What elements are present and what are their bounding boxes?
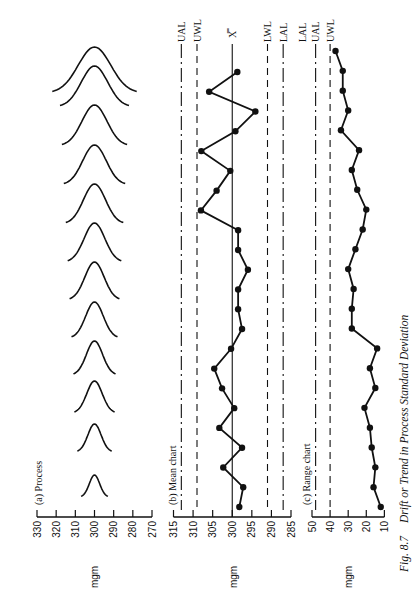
process-distribution-curve [64, 145, 125, 184]
range-data-point [372, 385, 378, 391]
mean-tick-label: 285 [286, 521, 297, 538]
range-data-point [374, 345, 380, 351]
mean-data-point [216, 425, 222, 431]
mean-ylabel: mgm [228, 566, 239, 588]
mean-data-point [245, 267, 251, 273]
mean-data-point [211, 365, 217, 371]
mean-lwl-label: LWL [262, 21, 273, 42]
mean-chart-panel: 315310305300295290285UALUWLLWLLALX̿ [168, 19, 297, 537]
range-tick-label: 30 [343, 521, 354, 533]
range-data-point [367, 424, 373, 430]
mean-data-point [239, 444, 245, 450]
mean-chart-title: (b) Mean chart [167, 445, 179, 505]
process-tick-label: 290 [108, 521, 119, 538]
range-data-point [359, 226, 365, 232]
process-distribution-curve [66, 184, 124, 223]
mean-data-point [198, 207, 204, 213]
mean-data-point [235, 247, 241, 253]
range-tick-label: 50 [307, 521, 318, 533]
range-data-point [372, 464, 378, 470]
figure-caption: Fig. 8.7 Drift or Trend in Process Stand… [398, 314, 411, 573]
range-data-point [340, 68, 346, 74]
process-distribution-curve [62, 105, 127, 145]
mean-data-point [206, 89, 212, 95]
figure-number: Fig. 8.7 [398, 535, 411, 573]
range-data-point [378, 504, 384, 510]
mean-data-point [234, 69, 240, 75]
process-distribution-curve [60, 66, 129, 106]
range-data-point [332, 48, 338, 54]
process-distribution-curve [73, 341, 115, 374]
range-tick-label: 40 [325, 521, 336, 533]
mean-data-point [228, 346, 234, 352]
range-tick-label: 10 [379, 521, 390, 533]
range-data-point [340, 87, 346, 93]
process-panel: 330320310300290280270 [32, 47, 158, 538]
mean-data-point [236, 504, 242, 510]
range-data-point [361, 405, 367, 411]
range-data-point [354, 187, 360, 193]
process-distribution-curve [74, 381, 114, 412]
mean-data-point [232, 128, 238, 134]
mean-uwl-label: UWL [192, 19, 203, 42]
range-data-point [356, 147, 362, 153]
mean-tick-label: 305 [207, 521, 218, 538]
range-lal-label: LAL [297, 23, 308, 42]
mean-data-point [219, 385, 225, 391]
range-uwl-label: UWL [325, 19, 336, 42]
range-data-point [345, 107, 351, 113]
figure-8-7: 330320310300290280270 315310305300295290… [0, 0, 417, 603]
mean-data-point [235, 227, 241, 233]
range-tick-label: 20 [361, 521, 372, 533]
process-distribution-curve [68, 223, 122, 261]
mean-data-point [227, 168, 233, 174]
mean-tick-label: 295 [246, 521, 257, 538]
mean-data-point [231, 405, 237, 411]
mean-ual-label: UAL [176, 21, 187, 42]
process-distribution-curve [70, 262, 120, 299]
process-distribution-curve [81, 475, 108, 496]
process-ylabel: mgm [89, 566, 100, 588]
mean-lal-label: LAL [278, 23, 289, 42]
mean-data-point [239, 326, 245, 332]
mean-tick-label: 310 [188, 521, 199, 538]
range-data-point [349, 325, 355, 331]
process-distribution-curve [52, 47, 136, 91]
mean-data-point [198, 148, 204, 154]
range-ylabel: mgm [343, 566, 354, 588]
mean-tick-label: 290 [266, 521, 277, 538]
range-data-point [367, 365, 373, 371]
range-data-point [349, 306, 355, 312]
range-data-point [370, 484, 376, 490]
process-title: (a) Process [33, 461, 45, 505]
range-ual-label: UAL [310, 21, 321, 42]
mean-data-line [201, 72, 255, 507]
range-data-point [349, 167, 355, 173]
mean-center-label: X̿ [227, 28, 238, 38]
figure-title: Drift or Trend in Process Standard Devia… [398, 314, 411, 524]
mean-data-point [252, 108, 258, 114]
mean-data-point [220, 464, 226, 470]
process-tick-label: 330 [32, 521, 43, 538]
mean-data-point [235, 286, 241, 292]
mean-data-point [235, 306, 241, 312]
range-chart-title: (c) Range chart [301, 443, 313, 505]
range-data-point [352, 246, 358, 252]
process-tick-label: 270 [147, 521, 158, 538]
process-tick-label: 280 [127, 521, 138, 538]
mean-data-point [213, 187, 219, 193]
range-data-point [369, 444, 375, 450]
range-data-line [336, 51, 381, 507]
mean-tick-label: 300 [227, 521, 238, 538]
mean-tick-label: 315 [168, 521, 179, 538]
process-tick-label: 300 [89, 521, 100, 538]
range-data-point [363, 206, 369, 212]
mean-data-point [240, 484, 246, 490]
range-data-point [350, 286, 356, 292]
process-tick-label: 320 [51, 521, 62, 538]
process-tick-label: 310 [70, 521, 81, 538]
range-data-point [345, 266, 351, 272]
range-data-point [338, 127, 344, 133]
process-distribution-curve [72, 302, 118, 337]
process-distribution-curve [77, 424, 112, 451]
